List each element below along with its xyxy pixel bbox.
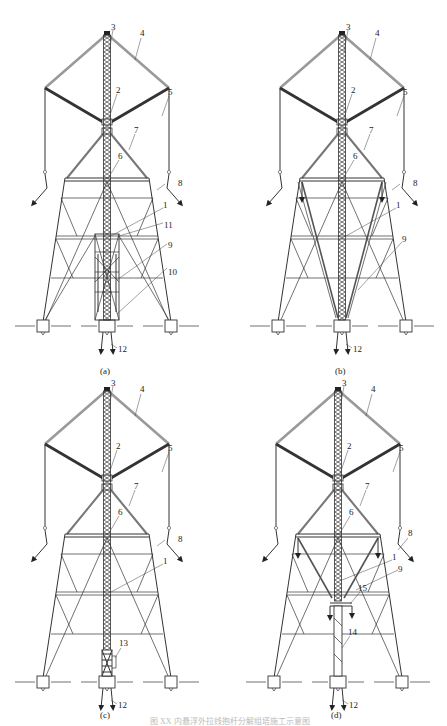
label-1: 1 [163,556,168,566]
label-9: 9 [168,240,173,250]
label-8: 8 [413,178,418,188]
caption-d: (d) [331,710,342,720]
label-14: 14 [348,627,358,637]
label-7: 7 [134,481,139,491]
label-1: 1 [163,200,168,210]
label-3: 3 [346,22,351,32]
label-4: 4 [371,384,376,394]
panel-b: 3 4 2 5 7 6 8 1 9 12 (b) [250,22,434,376]
inner-mast [104,391,111,676]
label-11: 11 [164,220,173,230]
label-2: 2 [351,85,356,95]
caption-a: (a) [100,366,110,376]
label-3: 3 [111,378,116,388]
label-15: 15 [358,583,368,593]
label-12: 12 [353,344,362,354]
label-13: 13 [119,638,129,648]
label-3: 3 [111,22,116,32]
inner-mast [335,391,342,601]
label-2: 2 [116,85,121,95]
label-4: 4 [140,384,145,394]
label-12: 12 [118,344,127,354]
figure-caption: 图 XX 内悬浮外拉线抱杆分解组塔施工示意图 [150,716,310,726]
label-1: 1 [396,200,401,210]
label-5: 5 [168,87,173,97]
label-7: 7 [365,481,370,491]
label-3: 3 [342,378,347,388]
panel-a: 3 4 2 5 7 6 8 1 11 9 10 12 (a) [15,22,199,376]
label-9: 9 [398,564,403,574]
label-6: 6 [349,507,354,517]
label-2: 2 [116,441,121,451]
label-2: 2 [347,441,352,451]
label-6: 6 [353,151,358,161]
label-1: 1 [392,552,397,562]
label-7: 7 [134,125,139,135]
label-5: 5 [399,443,404,453]
label-6: 6 [118,151,123,161]
label-4: 4 [140,28,145,38]
panel-c: 3 4 2 5 7 6 8 1 13 12 (c) [15,378,199,720]
tower-assembly-diagram: 3 4 2 5 7 6 8 1 11 9 10 12 (a) 3 4 [0,0,447,726]
label-8: 8 [178,534,183,544]
label-5: 5 [403,87,408,97]
caption-b: (b) [335,366,346,376]
label-12: 12 [118,700,127,710]
caption-c: (c) [100,710,110,720]
label-8: 8 [178,178,183,188]
label-12: 12 [349,700,358,710]
inner-mast [339,35,346,320]
label-7: 7 [369,125,374,135]
label-6: 6 [118,507,123,517]
label-10: 10 [168,267,178,277]
label-5: 5 [168,443,173,453]
panel-d: 3 4 2 5 7 6 8 1 9 15 14 12 (d) [246,378,430,720]
label-4: 4 [375,28,380,38]
label-9: 9 [402,234,407,244]
label-8: 8 [408,528,413,538]
